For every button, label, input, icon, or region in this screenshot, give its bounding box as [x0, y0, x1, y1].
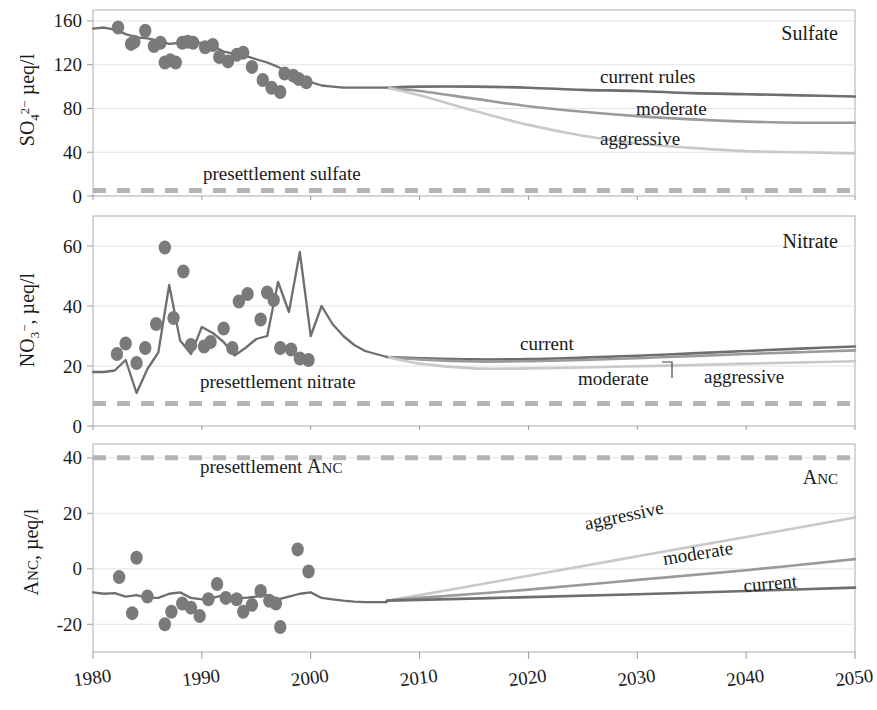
observation-point — [139, 341, 151, 355]
observation-point — [130, 356, 142, 370]
y-tick-label: 40 — [63, 447, 82, 468]
y-axis-title-sulfate: SO42− µeq/l — [16, 53, 42, 146]
x-tick-label: 2030 — [616, 665, 656, 690]
observation-point — [268, 293, 280, 307]
curve-label-sulfate-aggressive: aggressive — [600, 128, 680, 149]
observation-point — [274, 620, 286, 634]
observation-point — [113, 570, 125, 584]
observation-point — [139, 24, 151, 38]
observation-point — [167, 311, 179, 325]
observation-point — [126, 606, 138, 620]
x-tick-label: 2020 — [507, 665, 547, 690]
y-axis-title-nitrate: NO3−, µeq/l — [16, 272, 42, 367]
y-tick-label: 60 — [63, 236, 82, 257]
observation-point — [185, 338, 197, 352]
observation-point — [112, 21, 124, 35]
observation-point — [302, 353, 314, 367]
observation-point — [237, 46, 249, 60]
panel-sulfate: 04080120160 — [54, 10, 856, 207]
observation-point — [159, 241, 171, 255]
x-tick-label: 1980 — [72, 665, 112, 690]
y-tick-label: 120 — [54, 54, 83, 75]
x-tick-label: 2040 — [725, 665, 765, 690]
panel-nitrate: 0204060 — [63, 216, 855, 437]
presettlement-label-sulfate: presettlement sulfate — [203, 163, 361, 184]
observation-point — [202, 592, 214, 606]
y-tick-label: 0 — [73, 416, 83, 437]
observation-point — [211, 577, 223, 591]
observation-point — [141, 590, 153, 604]
y-axis-title-anc: ANC, µeq/l — [20, 508, 43, 595]
y-tick-label: 40 — [63, 142, 82, 163]
y-tick-label: 160 — [54, 10, 83, 31]
observation-point — [241, 287, 253, 301]
y-tick-label: 0 — [73, 558, 83, 579]
observation-point — [119, 337, 131, 351]
observation-point — [270, 596, 282, 610]
observation-point — [220, 591, 232, 605]
y-tick-label: 40 — [63, 296, 82, 317]
observation-point — [159, 617, 171, 631]
acidification-projection-figure: 040801201600204060-200204019801990200020… — [0, 0, 877, 710]
y-tick-label: 20 — [63, 356, 82, 377]
y-tick-label: 20 — [63, 503, 82, 524]
curve-label-nitrate-current: current — [520, 333, 575, 354]
observation-point — [217, 322, 229, 336]
y-axis-title-text: SO42− µeq/l — [16, 53, 42, 146]
observation-point — [300, 75, 312, 89]
presettlement-label-nitrate: presettlement nitrate — [200, 371, 356, 392]
observation-point — [207, 38, 219, 52]
observation-point — [111, 347, 123, 361]
x-tick-label: 2010 — [399, 665, 439, 690]
observation-point — [154, 36, 166, 50]
curve-label-sulfate-moderate: moderate — [636, 98, 707, 119]
three-panel-timeseries-chart: 040801201600204060-200204019801990200020… — [0, 0, 877, 710]
x-axis-labels: 19801990200020102020203020402050 — [72, 665, 874, 690]
observation-point — [204, 335, 216, 349]
y-tick-label: 0 — [73, 186, 83, 207]
panel-anc: -2002040 — [57, 444, 855, 659]
observation-point — [291, 542, 303, 556]
observation-point — [254, 313, 266, 327]
curve-label-sulfate-current-rules: current rules — [600, 66, 695, 87]
observation-point — [130, 551, 142, 565]
observation-point — [274, 341, 286, 355]
panel-title-sulfate: Sulfate — [781, 22, 838, 44]
y-axis-title-text: ANC, µeq/l — [20, 508, 43, 595]
presettlement-label-anc: presettlement ANC — [200, 455, 342, 477]
y-tick-label: -20 — [57, 614, 82, 635]
observation-point — [177, 265, 189, 279]
observation-point — [187, 36, 199, 50]
observation-point — [165, 605, 177, 619]
x-tick-label: 1990 — [181, 665, 221, 690]
y-axis-title-text: NO3−, µeq/l — [16, 272, 42, 367]
observation-point — [226, 341, 238, 355]
observation-point — [302, 565, 314, 579]
observation-point — [193, 609, 205, 623]
plot-frame — [93, 216, 855, 426]
observation-point — [274, 85, 286, 99]
curve-label-nitrate-aggressive: aggressive — [704, 366, 784, 387]
observation-point — [128, 35, 140, 49]
panel-title-nitrate: Nitrate — [782, 230, 838, 252]
observation-point — [170, 56, 182, 70]
x-tick-label: 2000 — [290, 665, 330, 690]
x-tick-label: 2050 — [834, 665, 874, 690]
observation-point — [150, 317, 162, 331]
observation-point — [246, 598, 258, 612]
curve-label-nitrate-moderate: moderate — [578, 368, 649, 389]
observation-point — [246, 60, 258, 74]
y-tick-label: 80 — [63, 98, 82, 119]
observation-point — [230, 592, 242, 606]
